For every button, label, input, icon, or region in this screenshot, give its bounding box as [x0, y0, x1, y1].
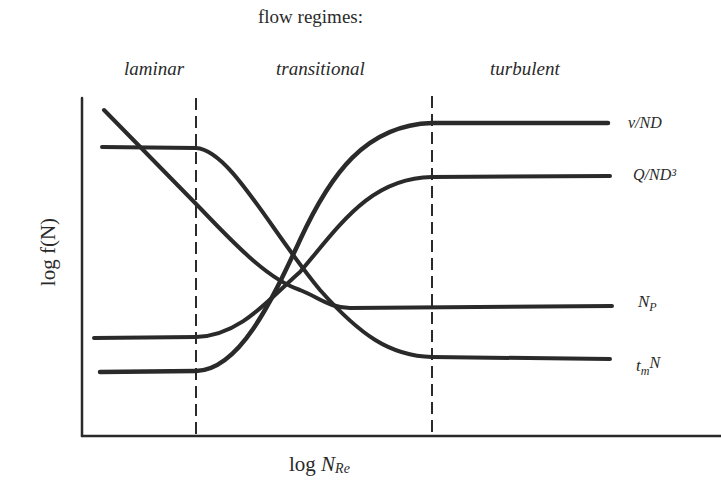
curve-label-tmn-n: N [649, 354, 660, 371]
curve-label-np-main: N [638, 292, 649, 311]
y-axis-label: log f(N) [36, 212, 61, 292]
curve-label-q-nd3: Q/ND³ [633, 166, 676, 184]
curve-v-nd [100, 123, 608, 372]
curve-tmn [102, 147, 610, 359]
curve-q-nd3 [94, 176, 610, 338]
plot-area [0, 0, 721, 503]
curve-label-v-nd: v/ND [628, 114, 662, 132]
x-axis-label-log: log [289, 452, 321, 476]
x-axis-label: log NRe [289, 452, 350, 477]
curve-label-tmn: tmN [636, 350, 660, 379]
curve-label-np-sub: P [649, 300, 656, 314]
x-axis-label-sub: Re [335, 461, 350, 476]
curve-label-np: NP [638, 292, 657, 315]
x-axis-label-var: N [321, 452, 335, 476]
